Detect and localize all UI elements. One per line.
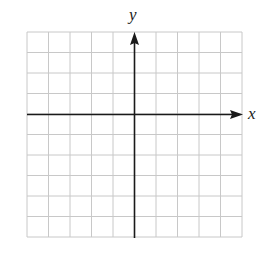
x-axis-label: x: [248, 105, 256, 122]
coordinate-plane: [0, 0, 271, 253]
y-axis-label: y: [129, 6, 137, 23]
